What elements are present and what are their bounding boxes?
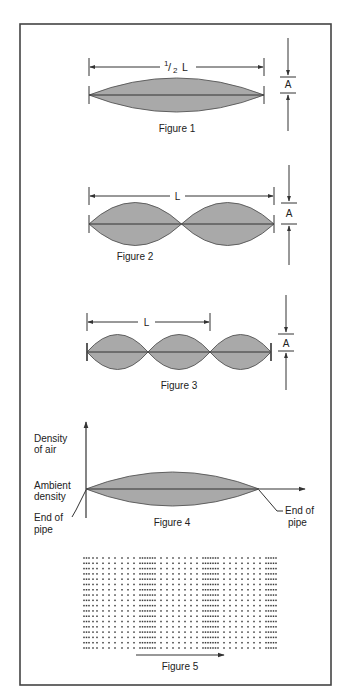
air-molecule-dot <box>86 605 88 607</box>
air-molecule-dot <box>212 589 214 591</box>
air-molecule-dot <box>215 647 217 649</box>
air-molecule-dot <box>133 568 135 570</box>
air-molecule-dot <box>108 621 110 623</box>
air-molecule-dot <box>247 642 249 644</box>
air-molecule-dot <box>127 631 129 633</box>
air-molecule-dot <box>235 568 237 570</box>
air-molecule-dot <box>235 600 237 602</box>
air-molecule-dot <box>268 642 270 644</box>
air-molecule-dot <box>241 642 243 644</box>
air-molecule-dot <box>152 578 154 580</box>
air-molecule-dot <box>196 647 198 649</box>
air-molecule-dot <box>207 578 209 580</box>
air-molecule-dot <box>265 626 267 628</box>
air-molecule-dot <box>142 626 144 628</box>
air-molecule-dot <box>152 610 154 612</box>
air-molecule-dot <box>154 626 156 628</box>
air-molecule-dot <box>133 573 135 575</box>
air-molecule-dot <box>205 610 207 612</box>
air-molecule-dot <box>147 647 149 649</box>
air-molecule-dot <box>210 557 212 559</box>
air-molecule-dot <box>202 563 204 565</box>
air-molecule-dot <box>241 621 243 623</box>
air-molecule-dot <box>114 615 116 617</box>
air-molecule-dot <box>83 578 85 580</box>
air-molecule-dot <box>273 647 275 649</box>
air-molecule-dot <box>144 605 146 607</box>
air-molecule-dot <box>121 642 123 644</box>
air-molecule-dot <box>190 589 192 591</box>
air-molecule-dot <box>184 557 186 559</box>
air-molecule-dot <box>207 589 209 591</box>
air-molecule-dot <box>268 568 270 570</box>
air-molecule-dot <box>275 568 277 570</box>
air-molecule-dot <box>83 594 85 596</box>
air-molecule-dot <box>102 631 104 633</box>
air-molecule-dot <box>149 557 151 559</box>
air-molecule-dot <box>229 610 231 612</box>
air-molecule-dot <box>273 615 275 617</box>
air-molecule-dot <box>273 573 275 575</box>
air-molecule-dot <box>270 647 272 649</box>
air-molecule-dot <box>178 563 180 565</box>
air-molecule-dot <box>253 621 255 623</box>
air-molecule-dot <box>121 647 123 649</box>
air-molecule-dot <box>270 615 272 617</box>
air-molecule-dot <box>190 615 192 617</box>
air-molecule-dot <box>88 600 90 602</box>
air-molecule-dot <box>259 589 261 591</box>
air-molecule-dot <box>144 637 146 639</box>
air-molecule-dot <box>147 589 149 591</box>
air-molecule-dot <box>273 600 275 602</box>
air-molecule-dot <box>172 600 174 602</box>
air-molecule-dot <box>229 557 231 559</box>
air-molecule-dot <box>114 600 116 602</box>
air-molecule-dot <box>160 594 162 596</box>
air-molecule-dot <box>253 626 255 628</box>
air-molecule-dot <box>96 642 98 644</box>
air-molecule-dot <box>154 610 156 612</box>
air-molecule-dot <box>184 637 186 639</box>
air-molecule-dot <box>247 557 249 559</box>
air-molecule-dot <box>259 605 261 607</box>
air-molecule-dot <box>207 626 209 628</box>
air-molecule-dot <box>83 573 85 575</box>
air-molecule-dot <box>108 563 110 565</box>
air-molecule-dot <box>127 615 129 617</box>
air-molecule-dot <box>265 610 267 612</box>
air-molecule-dot <box>275 637 277 639</box>
air-molecule-dot <box>265 594 267 596</box>
air-molecule-dot <box>259 600 261 602</box>
air-molecule-dot <box>102 578 104 580</box>
air-molecule-dot <box>212 621 214 623</box>
air-molecule-dot <box>202 605 204 607</box>
air-molecule-dot <box>247 568 249 570</box>
air-molecule-dot <box>152 557 154 559</box>
air-molecule-dot <box>217 647 219 649</box>
air-molecule-dot <box>160 642 162 644</box>
air-molecule-dot <box>142 621 144 623</box>
air-molecule-dot <box>154 584 156 586</box>
air-molecule-dot <box>133 647 135 649</box>
air-molecule-dot <box>210 637 212 639</box>
air-molecule-dot <box>207 647 209 649</box>
air-molecule-dot <box>235 610 237 612</box>
air-molecule-dot <box>108 573 110 575</box>
air-molecule-dot <box>133 615 135 617</box>
air-molecule-dot <box>215 631 217 633</box>
air-molecule-dot <box>121 605 123 607</box>
air-molecule-dot <box>133 626 135 628</box>
air-molecule-dot <box>147 594 149 596</box>
air-molecule-dot <box>83 610 85 612</box>
air-molecule-dot <box>108 631 110 633</box>
air-molecule-dot <box>172 584 174 586</box>
air-molecule-dot <box>144 594 146 596</box>
air-molecule-dot <box>139 605 141 607</box>
air-molecule-dot <box>147 557 149 559</box>
air-molecule-dot <box>273 594 275 596</box>
figure-5-caption: Figure 5 <box>162 661 199 672</box>
air-molecule-dot <box>184 568 186 570</box>
air-molecule-dot <box>241 605 243 607</box>
air-molecule-dot <box>114 568 116 570</box>
air-molecule-dot <box>270 621 272 623</box>
